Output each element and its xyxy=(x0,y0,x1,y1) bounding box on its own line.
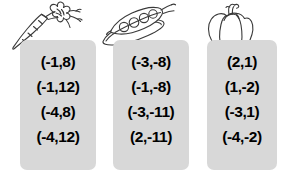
coordinate-value: (-4,8) xyxy=(41,99,76,124)
coordinate-value: (1,-2) xyxy=(225,74,260,99)
coordinate-value: (-4,-2) xyxy=(222,124,261,149)
vegetable-column-bell-pepper: (2,1) (1,-2) (-3,1) (-4,-2) xyxy=(190,0,281,174)
coordinate-value: (-3,1) xyxy=(225,99,260,124)
coordinate-value: (2,1) xyxy=(227,49,257,74)
vegetable-column-carrot: (-1,8) (-1,12) (-4,8) (-4,12) xyxy=(0,0,100,174)
coordinate-card: (-3,-8) (-1,-8) (-3,-11) (2,-11) xyxy=(113,40,189,170)
worksheet-page: (-1,8) (-1,12) (-4,8) (-4,12) xyxy=(0,0,281,174)
coordinate-value: (2,-11) xyxy=(130,124,172,149)
vegetable-column-pea-pod: (-3,-8) (-1,-8) (-3,-11) (2,-11) xyxy=(95,0,195,174)
coordinate-value: (-4,12) xyxy=(37,124,80,149)
coordinate-value: (-1,8) xyxy=(41,49,76,74)
coordinate-card: (2,1) (1,-2) (-3,1) (-4,-2) xyxy=(207,40,277,170)
coordinate-card: (-1,8) (-1,12) (-4,8) (-4,12) xyxy=(20,40,96,170)
coordinate-value: (-3,-11) xyxy=(128,99,175,124)
coordinate-value: (-1,12) xyxy=(37,74,80,99)
coordinate-value: (-1,-8) xyxy=(131,74,170,99)
coordinate-value: (-3,-8) xyxy=(131,49,170,74)
